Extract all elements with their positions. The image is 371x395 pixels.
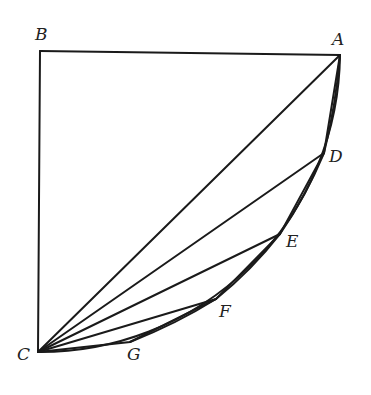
label-D: D [328,146,343,166]
label-G: G [127,344,141,364]
segment-CD [38,153,324,352]
segment-CE [38,234,280,352]
label-A: A [330,29,344,49]
label-B: B [34,24,48,44]
label-C: C [17,344,30,364]
segment-BC [38,51,40,352]
segment-BA [40,51,340,55]
geometry-diagram: B A D E F G C [0,0,371,395]
label-E: E [285,231,299,251]
label-F: F [218,301,232,321]
